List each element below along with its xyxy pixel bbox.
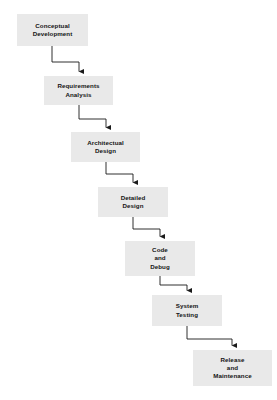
stage-box-detailed-design[interactable]: Detailed Design [98, 187, 168, 217]
stage-box-conceptual-development[interactable]: Conceptual Development [17, 14, 88, 46]
stage-box-requirements-analysis[interactable]: Requirements Analysis [44, 76, 113, 105]
stage-box-code-and-debug[interactable]: Code and Debug [125, 241, 195, 276]
waterfall-model-diagram: Conceptual Development Requirements Anal… [0, 0, 277, 400]
connector-detailed-to-code [133, 217, 160, 237]
connector-system-testing-to-release [187, 326, 232, 346]
stage-label-architectual-design: Architectual Design [87, 139, 124, 155]
stage-box-release-and-maintenance[interactable]: Release and Maintenance [193, 350, 272, 386]
connector-requirements-to-architectual [79, 105, 106, 128]
stage-label-release-and-maintenance: Release and Maintenance [213, 356, 251, 381]
stage-label-requirements-analysis: Requirements Analysis [57, 82, 99, 98]
connector-code-to-system-testing [160, 276, 187, 291]
stage-label-conceptual-development: Conceptual Development [33, 22, 73, 38]
stage-label-detailed-design: Detailed Design [121, 194, 146, 210]
stage-label-code-and-debug: Code and Debug [150, 246, 170, 271]
stage-box-architectual-design[interactable]: Architectual Design [71, 132, 140, 162]
connector-conceptual-to-requirements [52, 46, 79, 72]
stage-label-system-testing: System Testing [176, 302, 199, 318]
stage-box-system-testing[interactable]: System Testing [152, 295, 222, 326]
connector-architectual-to-detailed [106, 162, 133, 183]
